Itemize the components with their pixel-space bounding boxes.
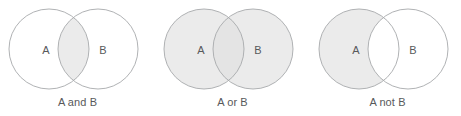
region-left-only	[310, 0, 461, 100]
set-label-a: A	[197, 44, 205, 56]
diagram-caption-a-or-b: A or B	[155, 96, 310, 109]
set-label-b: B	[409, 44, 416, 56]
venn-diagram-a-or-b: A B A or B	[155, 0, 310, 116]
venn-svg-a-or-b: A B	[155, 0, 310, 100]
venn-svg-a-not-b: A B	[310, 0, 461, 100]
venn-diagram-a-not-b: A B A not B	[310, 0, 461, 116]
diagram-caption-a-and-b: A and B	[0, 96, 155, 109]
set-label-a: A	[42, 44, 50, 56]
set-label-b: B	[99, 44, 106, 56]
set-label-b: B	[254, 44, 261, 56]
venn-diagram-figure: A B A and B A B A or B	[0, 0, 461, 116]
set-label-a: A	[352, 44, 360, 56]
venn-diagram-a-and-b: A B A and B	[0, 0, 155, 116]
diagram-caption-a-not-b: A not B	[310, 96, 461, 109]
venn-svg-a-and-b: A B	[0, 0, 155, 100]
